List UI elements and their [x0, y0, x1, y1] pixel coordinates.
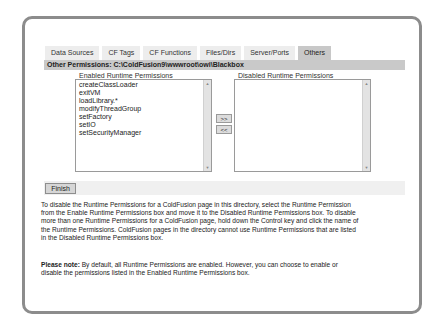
enabled-permissions-listbox[interactable]: createClassLoader exitVM loadLibrary.* m… [75, 79, 212, 172]
finish-button[interactable]: Finish [45, 183, 76, 194]
instructions-text: To disable the Runtime Permissions for a… [41, 201, 359, 242]
list-item[interactable]: createClassLoader [79, 81, 141, 89]
scroll-up-icon[interactable]: ▲ [363, 80, 370, 87]
move-to-disabled-button[interactable]: >> [216, 114, 232, 123]
disabled-list-scrollbar[interactable]: ▲ ▼ [362, 80, 370, 171]
move-to-enabled-button[interactable]: << [216, 125, 232, 134]
list-item[interactable]: setIO [79, 121, 141, 129]
scroll-up-icon[interactable]: ▲ [204, 80, 211, 87]
list-item[interactable]: exitVM [79, 89, 141, 97]
permissions-path-header: Other Permissions: C:\ColdFusion9\wwwroo… [44, 60, 405, 70]
tab-others[interactable]: Others [298, 46, 331, 60]
enabled-permissions-label: Enabled Runtime Permissions [79, 72, 173, 79]
tab-data-sources[interactable]: Data Sources [45, 46, 99, 60]
enabled-list-scrollbar[interactable]: ▲ ▼ [203, 80, 211, 171]
disabled-permissions-label: Disabled Runtime Permissions [238, 72, 333, 79]
disabled-permissions-listbox[interactable]: ▲ ▼ [234, 79, 371, 172]
tab-cf-functions[interactable]: CF Functions [143, 46, 197, 60]
note-label: Please note: [41, 261, 80, 268]
tab-server-ports[interactable]: Server/Ports [244, 46, 295, 60]
scroll-down-icon[interactable]: ▼ [204, 164, 211, 171]
note-paragraph: Please note: By default, all Runtime Per… [41, 261, 359, 277]
list-item[interactable]: loadLibrary.* [79, 97, 141, 105]
scroll-down-icon[interactable]: ▼ [363, 164, 370, 171]
tab-files-dirs[interactable]: Files/Dirs [200, 46, 241, 60]
list-item[interactable]: modifyThreadGroup [79, 105, 141, 113]
tab-bar: Data Sources CF Tags CF Functions Files/… [45, 46, 334, 60]
note-text: By default, all Runtime Permissions are … [41, 261, 338, 276]
list-item[interactable]: setFactory [79, 113, 141, 121]
list-item[interactable]: setSecurityManager [79, 129, 141, 137]
finish-bar [44, 181, 405, 195]
tab-cf-tags[interactable]: CF Tags [102, 46, 140, 60]
